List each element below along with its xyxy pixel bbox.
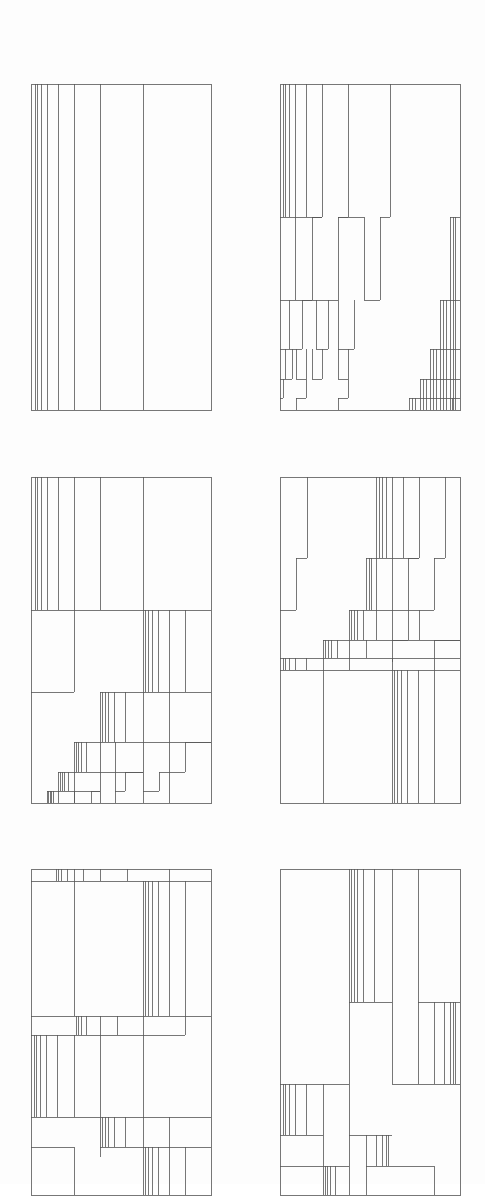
panel-3-split-grid bbox=[30, 476, 214, 806]
panel-1-columns bbox=[30, 83, 214, 413]
panel-5-interlocking-blocks bbox=[30, 868, 214, 1198]
panel-4-converging-steps bbox=[279, 476, 463, 806]
panel-6-offset-blocks bbox=[279, 868, 463, 1198]
panel-2-staircase bbox=[279, 83, 463, 413]
